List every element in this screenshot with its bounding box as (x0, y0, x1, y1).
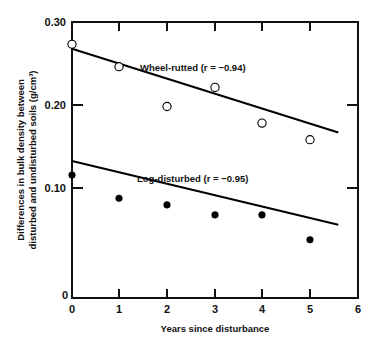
y-tick-label-0: 0 (62, 289, 68, 301)
wheel-rutted-annotation: Wheel-rutted (r = −0.94) (140, 62, 246, 73)
series-log-disturbed: Log-disturbed (r = −0.95) (69, 161, 339, 243)
x-axis-ticks-top (119, 22, 310, 31)
data-point-open (68, 40, 76, 48)
data-point-open (306, 136, 314, 144)
data-point-open (115, 63, 123, 71)
scatter-plot-svg: 0.30 0.20 0.10 0 0 1 2 3 4 5 6 Years sin… (0, 0, 376, 343)
x-tick-label-2: 2 (164, 303, 170, 315)
x-tick-label-4: 4 (259, 303, 266, 315)
y-tick-label-0.20: 0.20 (45, 99, 66, 111)
data-point-filled (307, 237, 314, 244)
x-tick-label-1: 1 (116, 303, 122, 315)
data-point-filled (212, 212, 219, 219)
chart-figure: 0.30 0.20 0.10 0 0 1 2 3 4 5 6 Years sin… (0, 0, 376, 343)
y-tick-label-0.10: 0.10 (45, 182, 66, 194)
x-tick-label-5: 5 (307, 303, 313, 315)
x-tick-label-3: 3 (212, 303, 218, 315)
data-point-filled (69, 172, 76, 179)
y-axis-title-line2: disturbed and undisturbed soils (g/cm³) (27, 71, 38, 250)
y-axis-ticks-right (347, 105, 358, 188)
x-tick-label-0: 0 (69, 303, 75, 315)
data-point-open (258, 119, 266, 127)
data-point-open (163, 102, 171, 110)
x-tick-label-6: 6 (355, 303, 361, 315)
x-axis-title: Years since disturbance (161, 323, 270, 334)
data-point-filled (116, 195, 123, 202)
log-disturbed-fit-line (72, 161, 338, 225)
y-axis-title-line1: Differences in bulk density between (15, 79, 26, 241)
series-wheel-rutted: Wheel-rutted (r = −0.94) (68, 40, 338, 144)
data-point-filled (259, 212, 266, 219)
y-tick-label-0.30: 0.30 (45, 16, 66, 28)
data-point-open (211, 83, 219, 91)
log-disturbed-annotation: Log-disturbed (r = −0.95) (137, 173, 248, 184)
x-axis-ticks (72, 289, 358, 298)
data-point-filled (164, 202, 171, 209)
